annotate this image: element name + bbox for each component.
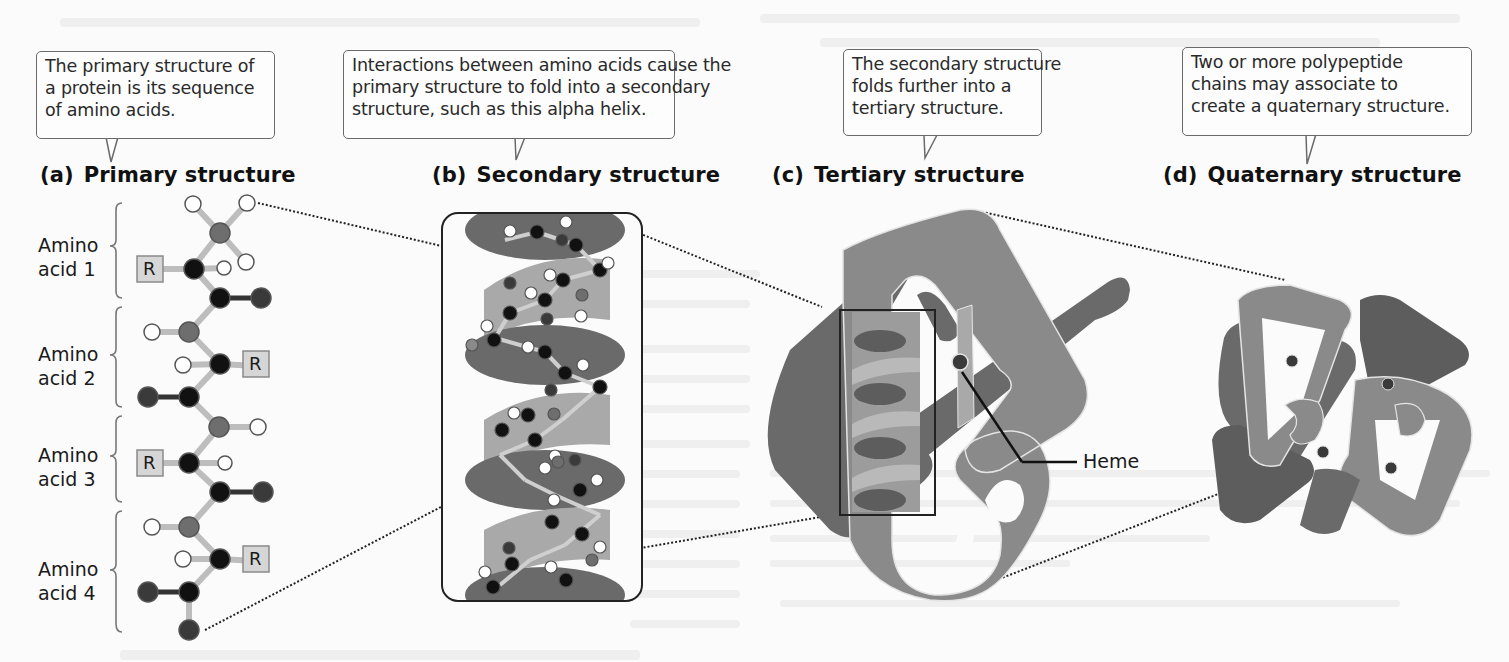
callout-line: a protein is its sequence	[45, 77, 266, 99]
aa-label-line: Amino	[38, 342, 98, 366]
heme-label: Heme	[1083, 450, 1139, 472]
tertiary-helix-stripes	[852, 312, 920, 512]
panel-title-text: Secondary structure	[477, 163, 721, 187]
panel-letter: (c)	[772, 163, 804, 187]
panel-letter: (a)	[40, 163, 74, 187]
quaternary-ribbons	[1212, 285, 1472, 536]
r-group-label: R	[249, 547, 262, 571]
aa-label-line: acid 1	[38, 257, 98, 281]
panel-title-secondary: (b)Secondary structure	[432, 163, 720, 187]
callout-line: of amino acids.	[45, 99, 266, 121]
panel-title-quaternary: (d)Quaternary structure	[1163, 163, 1462, 187]
callout-line: create a quaternary structure.	[1191, 95, 1463, 117]
aa-label-line: acid 2	[38, 366, 98, 390]
tertiary-ribbon	[768, 209, 1130, 601]
aa-label-line: Amino	[38, 443, 98, 467]
aa-label-line: Amino	[38, 557, 98, 581]
alpha-helix	[442, 200, 642, 623]
callout-line: structure, such as this alpha helix.	[352, 98, 666, 120]
panel-title-text: Tertiary structure	[814, 163, 1025, 187]
aa-label-line: acid 3	[38, 467, 98, 491]
callout-tails	[106, 134, 1316, 164]
callout-line: Two or more polypeptide	[1191, 51, 1463, 73]
aa-label-line: Amino	[38, 233, 98, 257]
callout-primary: The primary structure of a protein is it…	[36, 51, 275, 139]
amino-acid-braces	[110, 203, 122, 632]
callout-line: tertiary structure.	[852, 97, 1033, 119]
r-group-label: R	[143, 451, 156, 475]
callout-quaternary: Two or more polypeptide chains may assoc…	[1182, 47, 1472, 136]
callout-line: Interactions between amino acids cause t…	[352, 54, 666, 76]
amino-acid-label-1: Amino acid 1	[38, 233, 98, 281]
callout-secondary: Interactions between amino acids cause t…	[343, 50, 675, 139]
panel-letter: (b)	[432, 163, 467, 187]
panel-title-text: Primary structure	[84, 163, 296, 187]
callout-line: The primary structure of	[45, 55, 266, 77]
panel-title-primary: (a)Primary structure	[40, 163, 296, 187]
callout-line: chains may associate to	[1191, 73, 1463, 95]
aa-label-line: acid 4	[38, 581, 98, 605]
panel-title-text: Quaternary structure	[1208, 163, 1462, 187]
callout-line: primary structure to fold into a seconda…	[352, 76, 666, 98]
amino-acid-label-3: Amino acid 3	[38, 443, 98, 491]
r-group-label: R	[249, 352, 262, 376]
callout-tertiary: The secondary structure folds further in…	[843, 49, 1042, 136]
callout-line: The secondary structure	[852, 53, 1033, 75]
amino-acid-label-2: Amino acid 2	[38, 342, 98, 390]
r-group-label: R	[143, 257, 156, 281]
zoom-connector-lines	[205, 203, 1285, 630]
callout-line: folds further into a	[852, 75, 1033, 97]
panel-letter: (d)	[1163, 163, 1198, 187]
panel-title-tertiary: (c)Tertiary structure	[772, 163, 1025, 187]
amino-acid-label-4: Amino acid 4	[38, 557, 98, 605]
